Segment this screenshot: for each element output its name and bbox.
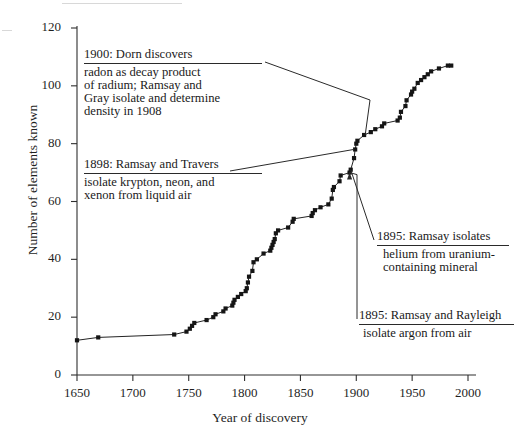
data-point bbox=[286, 225, 290, 229]
x-axis-label: Year of discovery bbox=[130, 410, 390, 426]
data-point bbox=[318, 205, 322, 209]
data-point bbox=[250, 269, 254, 273]
data-point bbox=[223, 306, 227, 310]
data-point bbox=[399, 110, 403, 114]
data-point bbox=[355, 139, 359, 143]
annotation-helium-body: helium from uranium- containing mineral bbox=[383, 248, 509, 274]
x-tick-1950: 1950 bbox=[382, 385, 442, 401]
data-point bbox=[330, 197, 334, 201]
data-point bbox=[332, 185, 336, 189]
data-point bbox=[239, 292, 243, 296]
annotation-travers-heading: 1898: Ramsay and Travers bbox=[84, 157, 262, 174]
data-point bbox=[404, 98, 408, 102]
annotation-argon: 1895: Ramsay and Rayleigh isolate argon … bbox=[359, 305, 514, 340]
annotation-argon-heading: 1895: Ramsay and Rayleigh bbox=[359, 308, 514, 325]
data-point bbox=[352, 156, 356, 160]
data-point bbox=[403, 104, 407, 108]
y-tick-20: 20 bbox=[21, 308, 61, 324]
data-point bbox=[412, 87, 416, 91]
x-tick-1650: 1650 bbox=[47, 385, 107, 401]
data-point bbox=[261, 251, 265, 255]
data-point bbox=[246, 280, 250, 284]
annotation-argon-body: isolate argon from air bbox=[363, 327, 514, 340]
x-tick-2000: 2000 bbox=[438, 385, 498, 401]
leader-dorn bbox=[265, 62, 370, 135]
annotation-helium: 1895: Ramsay isolates helium from uraniu… bbox=[377, 226, 509, 274]
data-point bbox=[245, 286, 249, 290]
data-point bbox=[369, 130, 373, 134]
data-point bbox=[96, 335, 100, 339]
data-point bbox=[326, 202, 330, 206]
annotation-dorn: 1900: Dorn discovers radon as decay prod… bbox=[84, 44, 262, 118]
y-tick-100: 100 bbox=[21, 77, 61, 93]
x-tick-1700: 1700 bbox=[103, 385, 163, 401]
data-point bbox=[213, 312, 217, 316]
chart-figure: Number of elements known Year of discove… bbox=[0, 0, 518, 443]
y-tick-120: 120 bbox=[21, 19, 61, 35]
data-point bbox=[313, 208, 317, 212]
y-tick-80: 80 bbox=[21, 135, 61, 151]
data-point bbox=[192, 321, 196, 325]
data-point bbox=[273, 237, 277, 241]
data-point bbox=[337, 179, 341, 183]
y-tick-40: 40 bbox=[21, 250, 61, 266]
data-point bbox=[339, 173, 343, 177]
data-point bbox=[292, 217, 296, 221]
data-point bbox=[373, 127, 377, 131]
data-point bbox=[398, 116, 402, 120]
annotation-helium-heading: 1895: Ramsay isolates bbox=[377, 229, 509, 246]
data-point bbox=[276, 228, 280, 232]
annotation-dorn-body: radon as decay product of radium; Ramsay… bbox=[84, 66, 262, 119]
data-point bbox=[382, 121, 386, 125]
y-axis-label: Number of elements known bbox=[25, 85, 41, 275]
data-point bbox=[75, 338, 79, 342]
data-point bbox=[172, 332, 176, 336]
x-tick-1800: 1800 bbox=[215, 385, 275, 401]
data-point bbox=[204, 318, 208, 322]
data-point bbox=[255, 257, 259, 261]
x-tick-1750: 1750 bbox=[159, 385, 219, 401]
y-tick-0: 0 bbox=[21, 366, 61, 382]
data-point bbox=[247, 275, 251, 279]
data-point bbox=[449, 63, 453, 67]
leader-helium bbox=[351, 170, 374, 240]
data-point bbox=[429, 69, 433, 73]
x-tick-1900: 1900 bbox=[326, 385, 386, 401]
annotation-travers: 1898: Ramsay and Travers isolate krypton… bbox=[84, 154, 262, 202]
annotation-dorn-heading: 1900: Dorn discovers bbox=[84, 47, 262, 64]
leader-argon bbox=[350, 173, 357, 319]
data-point bbox=[437, 66, 441, 70]
annotation-travers-body: isolate krypton, neon, and xenon from li… bbox=[84, 176, 262, 202]
x-tick-1850: 1850 bbox=[270, 385, 330, 401]
y-tick-60: 60 bbox=[21, 193, 61, 209]
